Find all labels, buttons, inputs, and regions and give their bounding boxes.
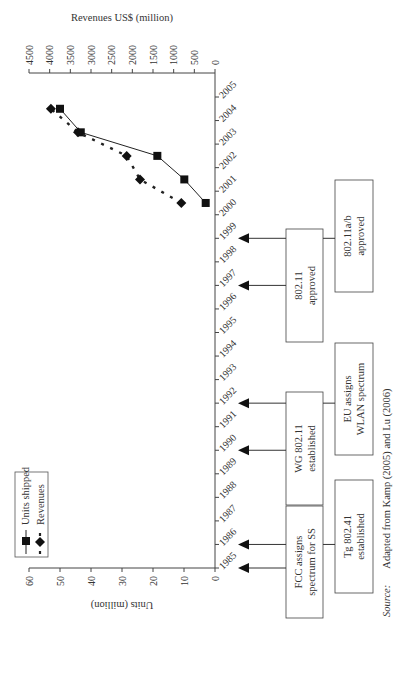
y-right-tick-label: 500	[189, 50, 200, 65]
x-tick-label: 1993	[217, 361, 239, 383]
y-right-tick-label: 0	[210, 60, 221, 65]
y-left-tick-label: 0	[210, 576, 221, 581]
annotation-text: WG 802.11	[293, 424, 304, 473]
annotation: EU assignsWLAN spectrum	[323, 343, 373, 455]
revenues-point	[122, 151, 132, 161]
x-tick-label: 2003	[217, 126, 239, 148]
y-right-tick-label: 3500	[65, 45, 76, 65]
revenues-point	[135, 174, 145, 184]
x-tick-label: 1997	[217, 267, 239, 289]
x-tick-label: 1985	[217, 549, 239, 571]
legend-units-marker	[22, 537, 30, 545]
legend-revenues-label: Revenues	[35, 484, 46, 525]
x-tick-label: 1990	[217, 432, 239, 454]
legend: Units shipped Revenues	[15, 466, 48, 557]
y-right-tick-label: 1500	[148, 45, 159, 65]
arrow-head-icon	[238, 280, 249, 290]
x-tick-label: 2002	[217, 149, 239, 171]
rotated-figure: 1985198619871988198919901991199219931994…	[0, 0, 400, 677]
y-right-tick-label: 4000	[44, 45, 55, 65]
annotation-text: spectrum for SS	[306, 528, 317, 596]
y-right-tick-label: 1000	[168, 45, 179, 65]
x-tick-label: 1988	[217, 479, 239, 501]
arrow-head-icon	[238, 398, 249, 408]
annotation-text: WLAN spectrum	[355, 363, 366, 436]
y-left-tick-label: 20	[148, 576, 159, 586]
y-left-axis-title: Units (million)	[90, 599, 153, 611]
y-left-tick-label: 60	[24, 576, 35, 586]
y-right-tick-label: 4500	[24, 45, 35, 65]
x-tick-label: 1999	[217, 220, 239, 242]
annotation: 802.11approved	[238, 229, 323, 342]
units-shipped-point	[153, 152, 161, 160]
y-right-axis-title: Revenues US$ (million)	[71, 12, 174, 24]
annotation-text: 802.11	[293, 271, 304, 300]
x-tick-label: 2004	[217, 102, 239, 124]
y-left-tick-label: 10	[179, 576, 190, 586]
y-left-tick-label: 30	[117, 576, 128, 586]
y-right-tick-label: 2500	[106, 45, 117, 65]
arrow-head-icon	[238, 539, 249, 549]
source-label: Source:	[381, 585, 392, 617]
svg-text:Source: Adapted from K: Source: Adapted from Kamp (2005) and Lu …	[381, 388, 393, 617]
x-tick-label: 1994	[217, 338, 239, 360]
source-text: Adapted from Kamp (2005) and Lu (2006)	[381, 388, 393, 569]
legend-units-label: Units shipped	[20, 466, 31, 525]
y-right-tick-label: 2000	[127, 45, 138, 65]
series	[46, 104, 210, 208]
x-tick-label: 2000	[217, 196, 239, 218]
units-shipped-point	[56, 105, 64, 113]
annotation: WG 802.11established	[238, 392, 323, 505]
x-tick-label: 1991	[217, 408, 239, 430]
x-tick-label: 1989	[217, 455, 239, 477]
annotation-text: Tg 802.41	[342, 515, 353, 558]
x-tick-label: 1987	[217, 502, 239, 524]
source-note: Source: Adapted from Kamp (2005) and Lu …	[381, 388, 393, 617]
x-tick-label: 1992	[217, 385, 239, 407]
axes: 1985198619871988198919901991199219931994…	[24, 12, 239, 611]
x-tick-label: 2001	[217, 173, 239, 195]
units-shipped-line	[60, 109, 206, 203]
revenues-point	[176, 198, 186, 208]
annotation-box	[335, 180, 373, 292]
revenues-line	[51, 109, 181, 203]
x-tick-label: 2005	[217, 78, 239, 100]
arrow-head-icon	[238, 563, 249, 573]
y-right-tick-label: 3000	[86, 45, 97, 65]
y-left-tick-label: 40	[86, 576, 97, 586]
annotation-text: 802.11a/b	[342, 215, 353, 256]
units-shipped-point	[180, 175, 188, 183]
annotation-box	[335, 480, 373, 593]
arrow-head-icon	[238, 233, 249, 243]
arrow-head-icon	[238, 445, 249, 455]
annotation-text: established	[355, 512, 366, 559]
y-left-tick-label: 50	[55, 576, 66, 586]
annotation: FCC assignsspectrum for SS	[238, 506, 323, 618]
annotation-text: EU assigns	[342, 376, 353, 423]
wlan-timeline-chart: 1985198619871988198919901991199219931994…	[0, 0, 400, 677]
x-tick-label: 1996	[217, 290, 239, 312]
annotations: FCC assignsspectrum for SSTg 802.41estab…	[238, 180, 373, 618]
annotation: 802.11a/bapproved	[323, 180, 373, 292]
annotation-text: approved	[306, 265, 317, 305]
units-shipped-point	[202, 199, 210, 207]
annotation-box	[335, 343, 373, 455]
annotation-text: FCC assigns	[293, 536, 304, 589]
revenues-point	[46, 104, 56, 114]
annotation: Tg 802.41established	[323, 480, 373, 593]
x-tick-label: 1998	[217, 243, 239, 265]
x-tick-label: 1986	[217, 526, 239, 548]
annotation-text: approved	[355, 216, 366, 256]
x-tick-label: 1995	[217, 314, 239, 336]
annotation-text: established	[306, 424, 317, 471]
